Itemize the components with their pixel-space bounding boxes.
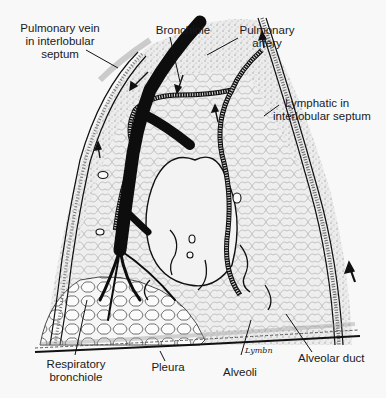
label-alveoli-line1: Alveoli	[218, 366, 262, 379]
label-pulmonary-vein-line3: septum	[14, 48, 106, 61]
label-lymphatic-line1: Lymphatic in	[273, 97, 371, 110]
label-pleura: Pleura	[148, 361, 188, 374]
label-lymphatic-line2: interlobular septum	[273, 110, 371, 123]
label-pulmonary-vein-line2: in interlobular	[14, 35, 106, 48]
artist-signature: Lymbn	[244, 346, 273, 355]
label-pulmonary-artery-line2: artery	[232, 37, 302, 50]
label-respiratory-bronchiole: Respiratory bronchiole	[38, 358, 114, 384]
label-alveolar-duct: Alveolar duct	[298, 352, 364, 365]
label-alveolar-duct-line1: Alveolar duct	[298, 352, 364, 365]
label-pleura-line1: Pleura	[148, 361, 188, 374]
label-alveoli: Alveoli	[218, 366, 262, 379]
label-pulmonary-artery-line1: Pulmonary	[232, 24, 302, 37]
label-pulmonary-artery: Pulmonary artery	[232, 24, 302, 50]
label-respiratory-bronchiole-line2: bronchiole	[38, 371, 114, 384]
label-bronchiole-line1: Bronchiole	[148, 24, 218, 37]
label-respiratory-bronchiole-line1: Respiratory	[38, 358, 114, 371]
label-bronchiole: Bronchiole	[148, 24, 218, 37]
central-space	[146, 157, 237, 286]
lung-lobule-diagram: Lymbn Pulmonary vein in interlobular sep…	[0, 0, 386, 398]
label-lymphatic: Lymphatic in interlobular septum	[273, 97, 371, 123]
label-pulmonary-vein-line1: Pulmonary vein	[14, 22, 106, 35]
label-pulmonary-vein: Pulmonary vein in interlobular septum	[14, 22, 106, 61]
